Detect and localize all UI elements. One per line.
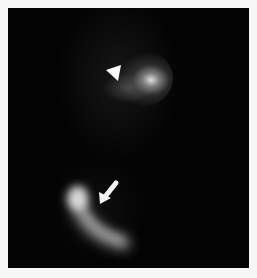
image-frame <box>8 8 249 268</box>
overlay-graphics <box>8 8 249 268</box>
arrow-marker <box>99 183 116 204</box>
lower-curved-uptake <box>68 186 123 243</box>
arrowhead-marker <box>106 65 121 81</box>
